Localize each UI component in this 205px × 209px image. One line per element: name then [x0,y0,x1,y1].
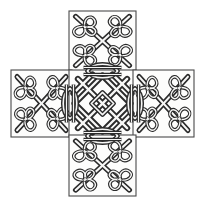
celtic-cross-artwork: Celtic Interlace Greek Cross [0,0,205,209]
celtic-cross-illustration: Celtic Interlace Greek Cross [0,0,205,209]
